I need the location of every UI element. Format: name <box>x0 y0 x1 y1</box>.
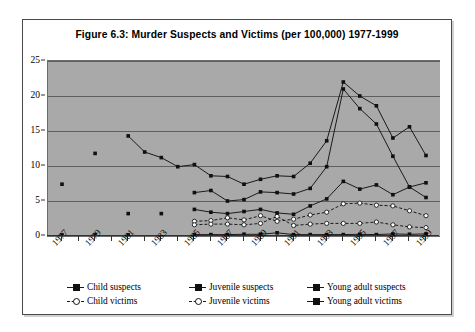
y-tick-label: 20 <box>31 90 41 100</box>
y-tick-mark <box>41 60 45 61</box>
y-axis: 0510152025 <box>23 60 45 235</box>
series-line <box>194 181 426 214</box>
data-point <box>160 156 164 160</box>
legend-item-juvenile-victims[interactable]: Juvenile victims <box>189 296 270 306</box>
open-circle-marker-icon <box>189 297 206 306</box>
legend-label: Young adult victims <box>327 296 402 306</box>
legend-item-juvenile-suspects[interactable]: Juvenile suspects <box>189 282 273 292</box>
y-tick-mark <box>41 200 45 201</box>
data-point <box>308 161 312 165</box>
data-point <box>325 139 329 143</box>
data-point <box>126 134 130 138</box>
series-juvenile-suspects <box>193 87 428 203</box>
data-point <box>424 196 428 200</box>
data-point <box>160 212 164 216</box>
data-point <box>242 182 246 186</box>
data-point <box>275 211 279 215</box>
data-point <box>325 165 329 169</box>
legend-label: Juvenile suspects <box>209 282 273 292</box>
filled-square-marker-icon <box>307 283 324 292</box>
data-point <box>209 189 213 193</box>
data-point <box>424 214 428 218</box>
y-tick-mark <box>41 235 45 236</box>
data-point <box>391 193 395 197</box>
data-point <box>242 210 246 214</box>
data-point <box>258 221 262 225</box>
data-point <box>209 174 213 178</box>
y-tick-mark <box>41 95 45 96</box>
data-point <box>325 210 329 214</box>
series-line <box>194 89 426 201</box>
data-point <box>242 198 246 202</box>
data-point <box>375 104 379 108</box>
data-point <box>391 204 395 208</box>
data-point <box>292 175 296 179</box>
data-point <box>407 209 411 213</box>
data-point <box>325 197 329 201</box>
data-point <box>259 208 263 212</box>
data-point <box>193 163 197 167</box>
figure-frame: Figure 6.3: Murder Suspects and Victims … <box>22 19 452 315</box>
legend-label: Juvenile victims <box>209 296 270 306</box>
data-point <box>342 180 346 184</box>
data-point <box>341 221 345 225</box>
filled-square-marker-icon <box>307 297 324 306</box>
data-point <box>225 216 229 220</box>
data-point <box>424 154 428 158</box>
data-point <box>209 222 213 226</box>
data-point <box>292 213 296 217</box>
data-point <box>407 225 411 229</box>
data-point <box>275 174 279 178</box>
x-axis-labels: 1977197919811983198519871989199119931995… <box>23 241 451 287</box>
data-point <box>275 191 279 195</box>
data-point <box>308 213 312 217</box>
data-point <box>408 125 412 129</box>
data-point <box>242 223 246 227</box>
data-point <box>126 212 130 216</box>
data-point <box>358 107 362 111</box>
filled-square-marker-icon <box>189 283 206 292</box>
y-tick-label: 0 <box>35 230 40 240</box>
data-point <box>375 183 379 187</box>
data-point <box>424 181 428 185</box>
data-point <box>259 178 263 182</box>
legend-label: Child victims <box>87 296 137 306</box>
legend-label: Young adult suspects <box>327 282 406 292</box>
data-point <box>374 203 378 207</box>
data-point <box>358 201 362 205</box>
data-point <box>242 218 246 222</box>
legend-item-young-adult-victims[interactable]: Young adult victims <box>307 296 402 306</box>
chart-legend: Child suspectsJuvenile suspectsYoung adu… <box>67 282 417 312</box>
data-point <box>226 199 230 203</box>
open-circle-marker-icon <box>67 297 84 306</box>
legend-item-young-adult-suspects[interactable]: Young adult suspects <box>307 282 406 292</box>
series-young-adult-suspects <box>126 80 427 186</box>
legend-item-child-suspects[interactable]: Child suspects <box>67 282 141 292</box>
data-point <box>325 221 329 225</box>
data-point <box>93 152 97 156</box>
data-point <box>226 175 230 179</box>
data-point <box>292 192 296 196</box>
data-point <box>391 154 395 158</box>
plot-series-svg <box>48 61 440 236</box>
y-tick-mark <box>41 165 45 166</box>
data-point <box>176 165 180 169</box>
legend-item-child-victims[interactable]: Child victims <box>67 296 137 306</box>
data-point <box>308 222 312 226</box>
data-point <box>209 210 213 214</box>
data-point <box>259 190 263 194</box>
legend-label: Child suspects <box>87 282 141 292</box>
data-point <box>275 219 279 223</box>
y-tick-label: 5 <box>35 195 40 205</box>
data-point <box>374 220 378 224</box>
data-point <box>258 214 262 218</box>
data-point <box>275 214 279 218</box>
data-point <box>226 212 230 216</box>
data-point <box>60 182 64 186</box>
data-point <box>342 80 346 84</box>
data-point <box>358 221 362 225</box>
data-point <box>225 222 229 226</box>
data-point <box>292 217 296 221</box>
data-point <box>358 94 362 98</box>
data-point <box>391 136 395 140</box>
